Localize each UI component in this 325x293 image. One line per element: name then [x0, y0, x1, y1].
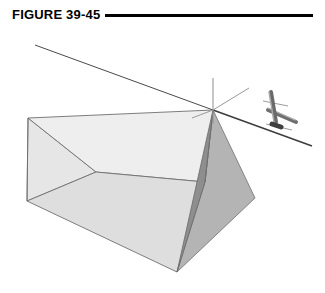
figure-root: FIGURE 39-45 [0, 0, 325, 293]
upper-right-normal-line [213, 88, 249, 110]
marker-base-node [272, 124, 281, 127]
marker-cross-bar-upper [263, 101, 288, 106]
prism-group [27, 110, 255, 272]
figure-illustration [0, 0, 325, 293]
axis-marker-group [263, 92, 296, 130]
incident-ray [35, 45, 213, 110]
